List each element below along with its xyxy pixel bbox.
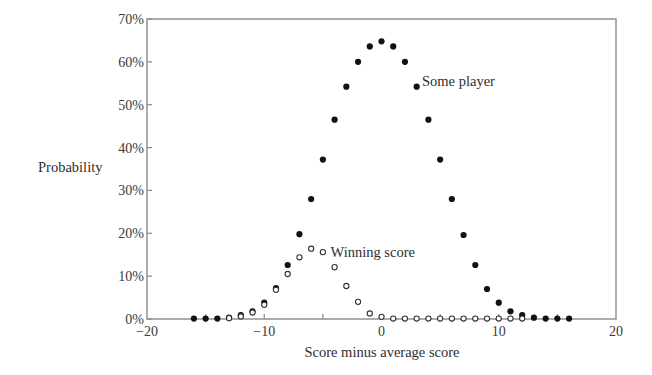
x-tick-label: 20 [609, 324, 623, 339]
data-point-some-player [191, 315, 197, 321]
y-tick-label: 20% [118, 226, 144, 241]
data-point-some-player [507, 308, 513, 314]
probability-chart: 0%10%20%30%40%50%60%70% −20−1001020 Prob… [0, 0, 652, 375]
annotation-some-player: Some player [422, 73, 495, 89]
data-point-some-player [320, 156, 326, 162]
data-point-some-player [472, 262, 478, 268]
x-tick-label: 0 [378, 324, 385, 339]
y-tick-label: 30% [118, 183, 144, 198]
y-tick-label: 50% [118, 98, 144, 113]
data-point-winning-score [367, 311, 372, 316]
data-point-some-player [449, 196, 455, 202]
data-point-some-player [343, 84, 349, 90]
y-tick-label: 70% [118, 12, 144, 27]
data-point-some-player [296, 231, 302, 237]
data-point-some-player [566, 315, 572, 321]
data-point-winning-score [320, 250, 325, 255]
data-point-winning-score [508, 316, 513, 321]
data-point-some-player [214, 315, 220, 321]
y-tick-label: 10% [118, 269, 144, 284]
data-point-some-player [367, 43, 373, 49]
data-point-some-player [402, 59, 408, 65]
data-point-some-player [554, 315, 560, 321]
data-point-winning-score [273, 287, 278, 292]
data-point-some-player [308, 196, 314, 202]
y-axis-label: Probability [38, 159, 103, 175]
data-point-winning-score [344, 283, 349, 288]
data-point-winning-score [438, 316, 443, 321]
y-tick-label: 60% [118, 55, 144, 70]
data-point-winning-score [426, 316, 431, 321]
data-point-some-player [332, 117, 338, 123]
data-point-winning-score [285, 271, 290, 276]
data-point-winning-score [496, 316, 501, 321]
data-point-some-player [437, 156, 443, 162]
data-point-winning-score [238, 314, 243, 319]
data-point-winning-score [449, 316, 454, 321]
data-point-some-player [425, 117, 431, 123]
data-point-some-player [203, 315, 209, 321]
data-point-some-player [460, 232, 466, 238]
y-tick-label: 40% [118, 141, 144, 156]
data-point-some-player [285, 262, 291, 268]
data-point-winning-score [379, 314, 384, 319]
data-point-winning-score [309, 246, 314, 251]
x-tick-label: −10 [253, 324, 275, 339]
x-tick-label: 10 [492, 324, 506, 339]
data-point-winning-score [332, 265, 337, 270]
x-tick-label: −20 [136, 324, 158, 339]
data-point-winning-score [461, 316, 466, 321]
series-some-player [191, 38, 572, 321]
data-point-some-player [414, 84, 420, 90]
data-point-winning-score [402, 316, 407, 321]
annotation-winning-score: Winning score [331, 244, 415, 260]
data-point-winning-score [520, 316, 525, 321]
data-point-winning-score [297, 255, 302, 260]
plot-frame [147, 19, 616, 319]
data-point-some-player [531, 315, 537, 321]
data-point-some-player [484, 286, 490, 292]
data-point-some-player [543, 315, 549, 321]
data-point-some-player [390, 43, 396, 49]
data-point-winning-score [226, 316, 231, 321]
data-point-winning-score [414, 316, 419, 321]
data-point-winning-score [484, 316, 489, 321]
data-point-some-player [496, 300, 502, 306]
plot-border [147, 19, 616, 319]
data-point-some-player [378, 38, 384, 44]
data-point-some-player [355, 59, 361, 65]
data-point-winning-score [355, 299, 360, 304]
x-axis-label: Score minus average score [304, 344, 459, 360]
data-point-winning-score [262, 302, 267, 307]
data-point-winning-score [250, 310, 255, 315]
data-point-winning-score [473, 316, 478, 321]
data-point-winning-score [391, 316, 396, 321]
